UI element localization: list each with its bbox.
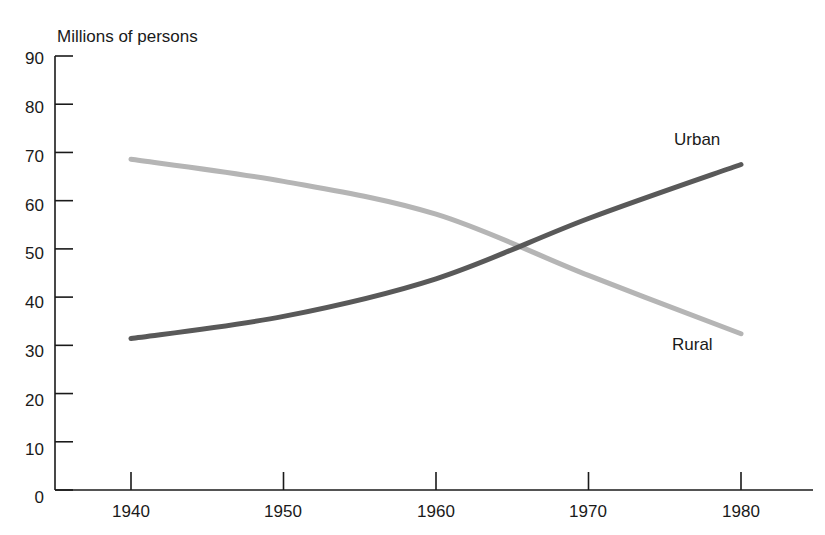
y-axis-ticks — [55, 56, 73, 490]
x-axis-ticks — [131, 472, 741, 490]
line-series-urban — [131, 165, 741, 339]
axis-lines — [55, 56, 813, 490]
line-series-rural — [131, 159, 741, 334]
chart-container: Millions of persons 90 80 70 60 50 40 30… — [0, 0, 825, 535]
plot-area — [0, 0, 825, 535]
